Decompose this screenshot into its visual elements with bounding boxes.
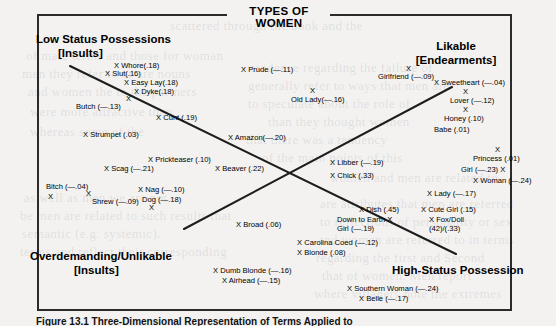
scatter-label-shrew: Shrew (—.09)	[92, 198, 139, 207]
scatter-marker-butch: X	[126, 95, 131, 104]
scatter-label-down-to-earth-girl: Down to Earth XGirl (—.19)	[337, 216, 392, 233]
scatter-label-chick: X Chick (.33)	[330, 172, 374, 181]
scatter-marker-girlfriend: X	[406, 65, 411, 74]
scatter-marker-lover: X	[463, 88, 468, 97]
scatter-label-dog: Dog (—.18)	[142, 196, 181, 205]
scatter-label-carolina-coed: X Carolina Coed (—.12)	[297, 239, 378, 248]
region-line-2: [Endearments]	[404, 54, 508, 68]
scatter-label-girlfriend: Girlfriend (—.09)	[378, 73, 434, 82]
scatter-label-dyke: X Dyke(.18)	[134, 88, 174, 97]
scatter-label-girl: Girl (—.23) X	[461, 166, 505, 175]
scatter-marker-old-lady: X	[310, 87, 315, 96]
scatter-label-sweetheart: X Sweetheart (—.04)	[434, 79, 505, 88]
scatter-label-cute-girl: X Cute Girl (.15)	[421, 206, 476, 215]
scatter-marker-dog: X	[149, 204, 154, 213]
scatter-label-airhead: X Airhead (—.15)	[222, 277, 280, 286]
scatter-label-lady: X Lady (—.17)	[427, 190, 476, 199]
region-line-2: [Insults]	[74, 264, 172, 278]
region-line-1: Low Status Possessions	[36, 33, 171, 45]
scatter-label-prickteaser: X Prickteaser (.10)	[148, 156, 211, 165]
scatter-label-dumb-blonde: X Dumb Blonde (—.16)	[213, 267, 292, 276]
region-label-likable: Likable [Endearments]	[404, 40, 508, 67]
scatter-label-blonde: X Blonde (.08)	[297, 249, 346, 258]
region-line-2: [Insults]	[58, 47, 171, 61]
scatter-marker-honey: X	[463, 106, 468, 115]
region-line-1: Likable	[436, 40, 476, 52]
scatter-label-strumpet: X Strumpet (.03)	[83, 131, 139, 140]
scatter-label-princess: Princess (.01)	[473, 155, 520, 164]
region-label-low-status-possessions: Low Status Possessions [Insults]	[36, 33, 171, 60]
scatter-label-prude: X Prude (—.11)	[241, 66, 293, 75]
scatter-label-old-lady: Old Lady(—.16)	[291, 96, 345, 105]
region-label-overdemanding-unlikable: Overdemanding/Unlikable [Insults]	[30, 250, 172, 277]
scatter-label-belle: X Belle (—.17)	[359, 295, 408, 304]
scatter-label-bitch: Bitch (—.04)	[46, 183, 88, 192]
scatter-label-fox-doll: X Fox/Doll(42)/(.33)	[429, 216, 464, 233]
scatter-label-amazon: X Amazon(—.20)	[228, 134, 286, 143]
scatter-label-cunt: X Cunt (.19)	[156, 114, 197, 123]
scatter-label-babe: Babe (.01)	[434, 126, 469, 135]
scatter-label-honey: Honey (.10)	[444, 115, 484, 124]
scatter-label-lover: Lover (—.12)	[450, 97, 494, 106]
scatter-marker-bitch: X	[48, 193, 53, 202]
scatter-label-libber: X Libber (—.19)	[330, 159, 384, 168]
scatter-label-southern-woman: X Southern Woman (—.24)	[347, 285, 438, 294]
figure-caption: Figure 13.1 Three-Dimensional Representa…	[36, 316, 353, 326]
scatter-label-broad: X Broad (.06)	[236, 221, 281, 230]
scatter-label-scag: X Scag (—.21)	[104, 165, 154, 174]
scanned-page: scattered through the book and theof mal…	[0, 0, 556, 326]
scatter-label-woman: X Woman (—.24)	[473, 177, 532, 186]
scatter-label-nag: X Nag (—.10)	[138, 186, 184, 195]
scatter-label-butch: Butch (—.13)	[76, 103, 121, 112]
scatter-label-dish: X Dish (.45)	[359, 206, 399, 215]
axis-overdemanding-likable	[184, 87, 452, 229]
region-line-1: High-Status Possession	[392, 264, 524, 276]
region-line-1: Overdemanding/Unlikable	[30, 250, 172, 262]
region-label-high-status-possession: High-Status Possession	[392, 264, 524, 278]
scatter-label-beaver: X Beaver (.22)	[215, 165, 264, 174]
scatter-marker-shrew: X	[86, 190, 91, 199]
scatter-marker-princess: X	[495, 146, 500, 155]
